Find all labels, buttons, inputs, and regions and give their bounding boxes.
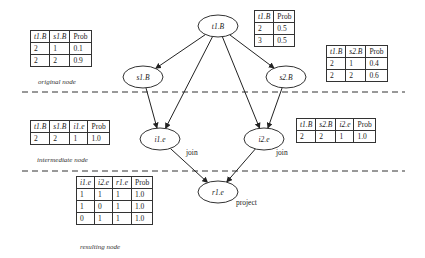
table-cell: 1 — [113, 213, 132, 225]
table-header-cell: s1.B — [50, 31, 70, 43]
table-cell: 2 — [297, 131, 316, 143]
table-cell: 1 — [70, 133, 88, 145]
table-row: 1011.0 — [77, 201, 153, 213]
table-cell: 1 — [95, 189, 113, 201]
table-header-cell: t1.B — [327, 46, 346, 58]
table-header-cell: s2.B — [316, 119, 336, 131]
table-cell: 0.6 — [366, 70, 387, 82]
table-cell: 2 — [346, 70, 366, 82]
table-row: 20.5 — [255, 23, 295, 35]
table-header-row: t1.Bs1.Bi1.eProb — [31, 121, 110, 133]
table-cell: 1 — [336, 131, 354, 143]
table-cell: 1.0 — [131, 213, 152, 225]
table-r1e: i1.ei2.er1.eProb1111.01011.00111.0 — [76, 176, 153, 225]
table-cell: 1 — [77, 189, 95, 201]
table-cell: 1 — [346, 58, 366, 70]
table-cell: 1.0 — [131, 189, 152, 201]
label-join-left: join — [186, 148, 198, 157]
table-t1B-s2B-prob: t1.Bs2.BProb210.4220.6 — [326, 45, 388, 82]
table-header-row: i1.ei2.er1.eProb — [77, 177, 153, 189]
table-cell: 0.9 — [70, 55, 91, 67]
table-cell: 0.4 — [366, 58, 387, 70]
table-header-cell: t1.B — [31, 31, 50, 43]
table-i2e: t1.Bs2.Bi2.eProb2211.0 — [296, 118, 376, 143]
table-cell: 0.1 — [70, 43, 91, 55]
edge-i2e-r1e — [227, 149, 256, 182]
table-header-row: t1.Bs1.BProb — [31, 31, 92, 43]
table-cell: 0 — [77, 213, 95, 225]
table-t1B-s1B-prob: t1.Bs1.BProb210.1220.9 — [30, 30, 92, 67]
node-label: s2.B — [279, 73, 293, 82]
table-cell: 2 — [31, 133, 50, 145]
caption-resulting-node: resulting node — [80, 243, 120, 251]
table-cell: 1.0 — [131, 201, 152, 213]
table-header-cell: t1.B — [255, 11, 274, 23]
node-label: i2.e — [258, 135, 270, 144]
table-header-cell: i1.e — [77, 177, 95, 189]
table-header-cell: s2.B — [346, 46, 366, 58]
table-header-cell: Prob — [274, 11, 295, 23]
table-header-cell: i2.e — [336, 119, 354, 131]
label-join-right: join — [276, 148, 288, 157]
table-cell: 1 — [113, 201, 132, 213]
table-header-cell: t1.B — [31, 121, 50, 133]
edge-s1B-i1e — [146, 88, 157, 128]
edge-s2B-i2e — [268, 88, 282, 128]
edge-t1B-i1e — [165, 37, 212, 129]
table-cell: 2 — [31, 55, 50, 67]
node-label: t1.B — [212, 22, 225, 31]
table-row: 2211.0 — [31, 133, 110, 145]
table-row: 2211.0 — [297, 131, 376, 143]
edge-t1B-s1B — [156, 35, 206, 69]
table-cell: 2 — [50, 133, 70, 145]
node-i2e: i2.e — [244, 128, 284, 150]
table-cell: 1.0 — [354, 131, 375, 143]
node-r1e: r1.e — [198, 181, 238, 203]
table-header-cell: Prob — [70, 31, 91, 43]
table-cell: 1.0 — [88, 133, 109, 145]
table-header-cell: s1.B — [50, 121, 70, 133]
table-header-cell: i1.e — [70, 121, 88, 133]
table-cell: 2 — [255, 23, 274, 35]
table-i1e: t1.Bs1.Bi1.eProb2211.0 — [30, 120, 110, 145]
node-s1B: s1.B — [123, 66, 163, 88]
node-label: s1.B — [136, 73, 150, 82]
table-row: 1111.0 — [77, 189, 153, 201]
table-row: 220.6 — [327, 70, 388, 82]
table-header-cell: Prob — [366, 46, 387, 58]
edges-group — [146, 35, 282, 183]
table-row: 30.5 — [255, 35, 295, 47]
table-header-row: t1.Bs2.Bi2.eProb — [297, 119, 376, 131]
caption-intermediate-node: intermediate node — [37, 156, 88, 164]
table-header-cell: r1.e — [113, 177, 132, 189]
table-row: 210.4 — [327, 58, 388, 70]
node-i1e: i1.e — [140, 128, 180, 150]
table-t1B-prob: t1.BProb20.530.5 — [254, 10, 295, 47]
table-row: 220.9 — [31, 55, 92, 67]
caption-original-node: original node — [38, 78, 76, 86]
node-label: r1.e — [212, 188, 225, 197]
table-row: 210.1 — [31, 43, 92, 55]
table-cell: 2 — [327, 58, 346, 70]
table-cell: 1 — [95, 213, 113, 225]
table-header-cell: Prob — [88, 121, 109, 133]
table-cell: 0.5 — [274, 35, 295, 47]
label-project: project — [236, 198, 257, 207]
table-cell: 2 — [327, 70, 346, 82]
table-cell: 1 — [113, 189, 132, 201]
table-cell: 0 — [95, 201, 113, 213]
table-cell: 2 — [316, 131, 336, 143]
table-header-row: t1.BProb — [255, 11, 295, 23]
table-header-cell: i2.e — [95, 177, 113, 189]
node-t1B: t1.B — [198, 15, 238, 37]
table-cell: 1 — [50, 43, 70, 55]
node-label: i1.e — [154, 135, 166, 144]
table-cell: 2 — [31, 43, 50, 55]
table-cell: 1 — [77, 201, 95, 213]
table-cell: 0.5 — [274, 23, 295, 35]
table-header-row: t1.Bs2.BProb — [327, 46, 388, 58]
edge-t1B-i2e — [222, 37, 259, 129]
table-header-cell: Prob — [131, 177, 152, 189]
table-cell: 2 — [50, 55, 70, 67]
table-header-cell: t1.B — [297, 119, 316, 131]
